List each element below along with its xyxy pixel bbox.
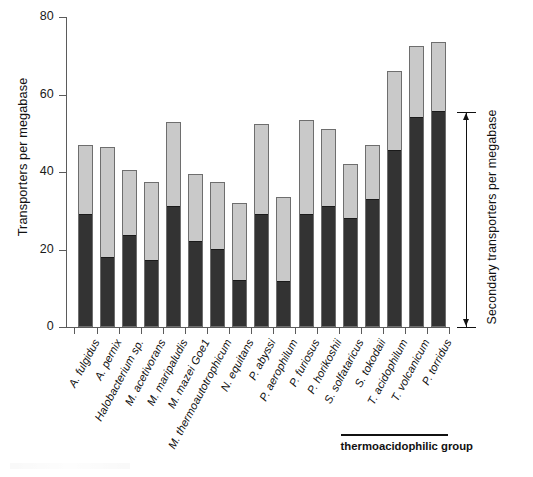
x-axis-tick	[163, 328, 164, 334]
bar-segment-secondary	[123, 235, 136, 326]
bar-p-aerophilum	[276, 197, 291, 327]
annotation-cap-bottom	[457, 327, 476, 328]
scan-artifact	[10, 463, 130, 469]
bar-segment-secondary	[255, 214, 268, 326]
x-axis-tick	[405, 328, 406, 334]
y-axis-tick	[59, 250, 66, 251]
bar-segment-secondary	[233, 280, 246, 327]
y-axis-tick-label: 0	[0, 319, 54, 333]
bar-segment-secondary	[366, 199, 379, 326]
bar-segment-secondary	[189, 241, 202, 326]
x-axis-label-a-fulgidus: A. fulgidus	[66, 337, 101, 389]
x-axis-tick	[295, 328, 296, 334]
y-axis-tick	[59, 95, 66, 96]
x-axis-tick	[251, 328, 252, 334]
arrow-head-down-icon	[463, 319, 469, 326]
bar-segment-secondary	[432, 111, 445, 326]
bar-t-volcanicum	[409, 46, 424, 327]
bar-p-horikoshii	[321, 129, 336, 327]
y-axis-tick-label: 20	[0, 242, 54, 256]
bar-a-pernix	[100, 147, 115, 327]
x-axis-tick	[427, 328, 428, 334]
bar-p-torridus	[431, 42, 446, 327]
x-axis-tick	[185, 328, 186, 334]
bar-a-fulgidus	[78, 145, 93, 327]
y-axis-tick-label: 60	[0, 87, 54, 101]
x-axis-tick	[141, 328, 142, 334]
y-axis-tick	[59, 172, 66, 173]
bar-m-thermoautotrophicum	[210, 182, 225, 327]
y-axis-tick	[59, 327, 66, 328]
x-axis-tick	[119, 328, 120, 334]
bar-segment-secondary	[388, 150, 401, 326]
bar-segment-secondary	[145, 260, 158, 326]
y-axis-tick-label: 40	[0, 164, 54, 178]
bar-halobacterium-sp	[122, 170, 137, 327]
bar-s-tokodaii	[365, 145, 380, 327]
bar-segment-secondary	[410, 117, 423, 326]
bar-n-equitans	[232, 203, 247, 327]
annotation-label: Secondary transporters per megabase	[485, 102, 499, 332]
bar-segment-secondary	[79, 214, 92, 326]
bar-s-solfataricus	[343, 164, 358, 327]
x-axis-tick	[383, 328, 384, 334]
bar-segment-secondary	[322, 206, 335, 326]
x-axis-tick	[229, 328, 230, 334]
bar-segment-secondary	[300, 214, 313, 326]
x-axis-tick	[74, 328, 75, 334]
x-axis-tick	[339, 328, 340, 334]
bar-p-abyssi	[254, 124, 269, 327]
x-axis-tick	[317, 328, 318, 334]
x-axis-tick	[97, 328, 98, 334]
thermoacidophilic-group-bracket	[341, 434, 448, 436]
arrow-head-up-icon	[463, 113, 469, 120]
bar-p-furiosus	[299, 120, 314, 327]
x-axis-tick	[207, 328, 208, 334]
bar-segment-secondary	[211, 249, 224, 327]
thermoacidophilic-group-label: thermoacidophilic group	[341, 440, 448, 452]
annotation-arrow-line	[466, 112, 467, 327]
x-axis-tick	[449, 328, 450, 334]
bar-segment-secondary	[344, 218, 357, 326]
bar-segment-secondary	[101, 257, 114, 326]
bar-segment-secondary	[277, 281, 290, 326]
bar-t-acidophilum	[387, 71, 402, 327]
y-axis-tick	[59, 17, 66, 18]
bar-m-acetivorans	[144, 182, 159, 327]
bar-m-maripaludis	[166, 122, 181, 327]
x-axis-tick	[361, 328, 362, 334]
y-axis-tick-label: 80	[0, 9, 54, 23]
chart-figure: Transporters per megabase 806040200 A. f…	[0, 0, 533, 477]
bar-m-mazei-goe1	[188, 174, 203, 327]
bar-segment-secondary	[167, 206, 180, 326]
x-axis-tick	[273, 328, 274, 334]
plot-area	[67, 17, 442, 327]
